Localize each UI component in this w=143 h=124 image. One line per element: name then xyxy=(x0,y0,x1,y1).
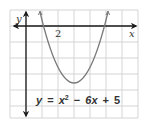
parabola-graph: y x 2 y = x2 − 6x + 5 xyxy=(0,0,143,124)
chart-svg: y x 2 y = x2 − 6x + 5 xyxy=(0,0,143,124)
x-tick-label-2: 2 xyxy=(55,28,61,39)
y-axis-label: y xyxy=(15,13,22,24)
x-axis-label: x xyxy=(129,28,135,39)
equation-label: y = x2 − 6x + 5 xyxy=(35,90,120,106)
